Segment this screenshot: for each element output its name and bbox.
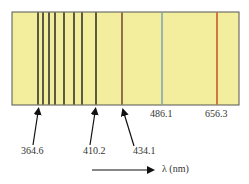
spectrum-diagram: 486.1 656.3 364.6 410.2 434.1 λ (nm) <box>0 0 249 184</box>
pointer-arrow-434 <box>123 110 134 146</box>
label-486-1: 486.1 <box>150 108 173 119</box>
spectrum-band <box>12 12 239 105</box>
label-656-3: 656.3 <box>205 108 228 119</box>
label-364-6: 364.6 <box>21 145 44 156</box>
axis-label-lambda: λ (nm) <box>162 163 189 174</box>
label-434-1: 434.1 <box>133 145 156 156</box>
label-410-2: 410.2 <box>83 145 106 156</box>
pointer-arrow-410 <box>90 109 96 145</box>
pointer-arrow-364 <box>33 109 39 145</box>
